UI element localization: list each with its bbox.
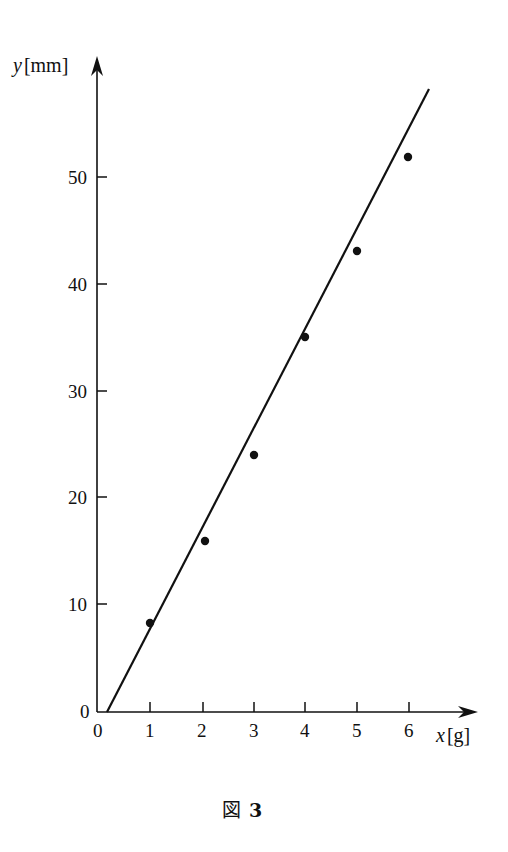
x-tick-label-1: 1 — [145, 720, 155, 741]
y-tick-label-10: 10 — [68, 594, 87, 615]
data-point — [301, 333, 309, 341]
data-point — [250, 451, 258, 459]
data-point — [353, 247, 361, 255]
data-point — [404, 153, 412, 161]
data-point — [201, 537, 209, 545]
data-points — [146, 153, 412, 627]
caption-prefix: 図 — [222, 799, 241, 821]
caption-number: 3 — [249, 799, 262, 821]
x-tick-label-2: 2 — [197, 720, 207, 741]
y-axis-title: y[mm] — [11, 54, 68, 77]
y-ticks — [97, 177, 107, 604]
y-origin-label: 0 — [80, 701, 90, 722]
y-tick-label-50: 50 — [68, 167, 87, 188]
x-tick-label-3: 3 — [249, 720, 259, 741]
data-point — [146, 619, 154, 627]
x-ticks — [150, 702, 409, 712]
x-tick-label-5: 5 — [352, 720, 362, 741]
y-tick-label-40: 40 — [68, 274, 87, 295]
y-axis-unit: [mm] — [24, 54, 68, 76]
x-tick-label-6: 6 — [404, 720, 414, 741]
x-axis-unit: [g] — [447, 724, 470, 747]
y-axis-var: y — [11, 54, 22, 77]
chart-canvas: 10 20 30 40 50 0 0 1 2 3 4 5 6 y[mm] x[g… — [0, 0, 508, 852]
y-tick-label-20: 20 — [68, 487, 87, 508]
x-tick-label-4: 4 — [300, 720, 310, 741]
x-axis-title: x[g] — [435, 724, 470, 747]
x-axis-var: x — [435, 724, 445, 746]
y-tick-label-30: 30 — [68, 381, 87, 402]
fit-line — [107, 89, 429, 712]
x-origin-label: 0 — [93, 720, 103, 741]
figure-caption: 図3 — [222, 795, 262, 822]
